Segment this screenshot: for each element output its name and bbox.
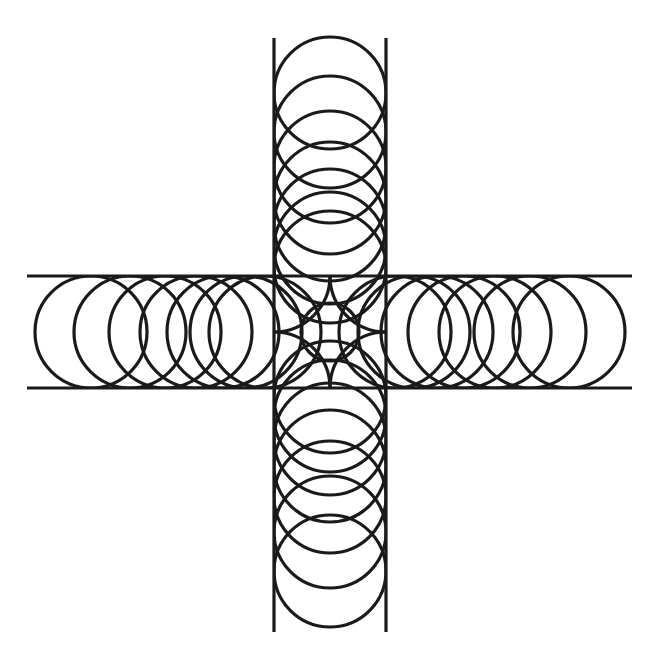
geometric-cross-figure xyxy=(0,0,659,671)
figure-root xyxy=(0,0,659,671)
canvas-background xyxy=(0,0,659,671)
